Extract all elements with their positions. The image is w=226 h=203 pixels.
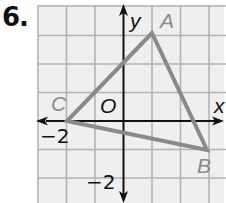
origin-label: O — [100, 94, 116, 117]
x-axis-label: x — [213, 94, 226, 117]
y-tick-label-neg2: −2 — [86, 170, 115, 194]
x-tick-label-neg2: −2 — [40, 124, 69, 148]
y-axis-label: y — [128, 9, 142, 32]
vertex-label-a: A — [158, 9, 174, 32]
coordinate-graph: y A O x C B −2 −2 — [0, 0, 226, 203]
vertex-label-c: C — [51, 92, 67, 115]
vertex-label-b: B — [197, 154, 211, 177]
